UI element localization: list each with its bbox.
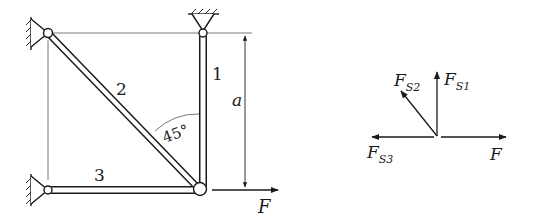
angle-label: 45° bbox=[160, 121, 191, 147]
free-body-diagram bbox=[372, 72, 506, 137]
force-s2-arrow bbox=[401, 91, 437, 136]
pin-top-right bbox=[199, 29, 207, 37]
member-label-2: 2 bbox=[116, 79, 127, 99]
force-label: F bbox=[257, 196, 272, 217]
pin-top-left bbox=[44, 29, 53, 38]
force-s3-label: FS3 bbox=[366, 142, 393, 166]
member-label-1: 1 bbox=[212, 64, 223, 84]
force-s2-label: FS2 bbox=[393, 70, 420, 94]
member-label-3: 3 bbox=[94, 165, 105, 185]
force-s1-label: FS1 bbox=[443, 69, 470, 93]
pin-bottom-left bbox=[44, 186, 52, 194]
truss-diagram: 45° 1 2 3 a F FS1 FS2 FS3 F bbox=[0, 0, 534, 224]
support-top-right bbox=[188, 9, 219, 31]
construction-lines bbox=[48, 33, 252, 180]
member-2 bbox=[48, 33, 198, 188]
force-f-label: F bbox=[489, 144, 503, 164]
dimension-label: a bbox=[232, 90, 242, 110]
joint-bottom-right bbox=[194, 183, 207, 196]
